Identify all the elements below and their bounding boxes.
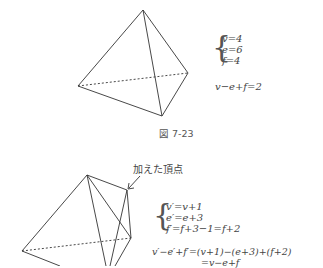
equation-f-prime: f′=f+3−1=f+2 [166, 223, 240, 234]
figure2-system: { v′=v+1 e′=e+3 f′=f+3−1=f+2 [166, 201, 240, 234]
left-brace: { [153, 198, 172, 232]
euler-formula: v−e+f=2 [215, 81, 262, 92]
added-vertex-label: 加えた頂点 [133, 161, 183, 176]
derivation-line-1: v′−e′+f′=(v+1)−(e+3)+(f+2) [152, 246, 292, 257]
equation-e-prime: e′=e+3 [166, 212, 240, 223]
derivation-line-2: =v−e+f [201, 257, 239, 268]
left-brace: { [212, 30, 231, 64]
figure1-system: { v=4 e=6 f=4 [222, 33, 243, 66]
figure-caption: 図 7-23 [159, 126, 194, 140]
equation-v-prime: v′=v+1 [166, 201, 240, 212]
